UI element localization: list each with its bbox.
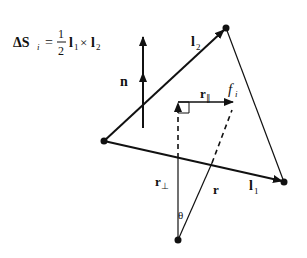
formula-term2: l — [91, 35, 95, 50]
vector-diagram: ΔS i = 1 2 l 1 × l 2 n l 2 l 1 f i r ∥ r… — [0, 0, 307, 258]
formula-term1-sub: 1 — [74, 42, 79, 52]
formula-lhs: ΔS — [13, 35, 30, 50]
r-dashed — [212, 110, 232, 163]
formula-equals: = — [45, 35, 53, 50]
label-r: r — [213, 182, 219, 197]
label-l1-sub: 1 — [254, 186, 259, 196]
formula-lhs-sub: i — [37, 42, 40, 52]
label-l1: l — [249, 178, 253, 193]
formula-term1: l — [69, 35, 73, 50]
edge-l1-arrow — [104, 141, 282, 181]
label-theta: θ — [178, 209, 183, 221]
r-solid — [178, 163, 212, 240]
normal-mid-arrowhead-icon — [139, 72, 147, 82]
label-n: n — [120, 74, 128, 89]
vertex-b — [223, 25, 230, 32]
label-l2-sub: 2 — [196, 42, 201, 52]
label-face: f — [228, 81, 234, 97]
vertex-a — [101, 138, 108, 145]
label-r-perp-sub: ⊥ — [161, 181, 169, 191]
area-formula: ΔS i = 1 2 l 1 × l 2 — [13, 27, 101, 58]
r-perp-arrowhead-icon — [174, 102, 182, 112]
formula-term2-sub: 2 — [96, 42, 101, 52]
label-r-parallel-sub: ∥ — [206, 93, 211, 103]
formula-frac-den: 2 — [58, 44, 64, 58]
formula-times: × — [80, 35, 87, 50]
edge-bc-line — [226, 28, 284, 182]
diagram-svg: ΔS i = 1 2 l 1 × l 2 n l 2 l 1 f i r ∥ r… — [0, 0, 307, 258]
formula-frac-num: 1 — [58, 27, 64, 41]
label-face-sub: i — [235, 89, 238, 99]
label-l2: l — [191, 34, 195, 49]
vertex-c — [281, 179, 288, 186]
